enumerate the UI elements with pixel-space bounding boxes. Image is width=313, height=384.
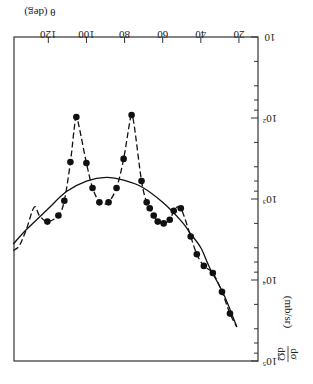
solid-fit-curve xyxy=(13,177,237,327)
data-point xyxy=(194,251,201,258)
y-tick-label: 103 xyxy=(262,194,277,206)
data-point xyxy=(83,160,90,167)
y-tick-exponent: 3 xyxy=(262,198,266,206)
y-tick-label: 105 xyxy=(262,356,277,368)
data-point xyxy=(160,220,167,227)
x-tick-label: 80 xyxy=(119,29,131,41)
cross-section-chart: 20406080100120 10102103104105 θ (deg) (m… xyxy=(0,0,313,384)
data-point xyxy=(105,199,112,206)
y-axis: 10102103104105 xyxy=(251,32,277,368)
plot-frame xyxy=(14,37,258,361)
data-point xyxy=(201,263,208,270)
data-point xyxy=(146,205,153,212)
x-tick-label: 100 xyxy=(78,29,95,41)
data-point xyxy=(44,218,51,225)
data-point xyxy=(61,197,68,204)
data-point xyxy=(138,178,145,185)
x-tick-label: 60 xyxy=(157,29,169,41)
data-point xyxy=(143,199,150,206)
y-axis-label: (mb/sr) dσ dΩ xyxy=(276,296,301,362)
data-point xyxy=(67,159,74,166)
y-axis-label-numerator: dσ xyxy=(289,348,301,360)
x-axis: 20406080100120 xyxy=(40,29,245,43)
data-point xyxy=(227,310,234,317)
data-point xyxy=(170,208,177,215)
y-tick-exponent: 2 xyxy=(262,117,266,125)
data-point xyxy=(154,218,161,225)
data-point xyxy=(120,156,127,163)
data-point xyxy=(210,270,217,277)
y-tick-label: 104 xyxy=(262,275,277,287)
y-tick-exponent: 5 xyxy=(262,360,266,368)
x-axis-label: θ (deg) xyxy=(24,6,56,19)
data-point xyxy=(128,112,135,119)
data-point xyxy=(219,289,226,296)
data-point xyxy=(89,185,96,192)
data-point xyxy=(150,212,157,219)
y-tick-label: 102 xyxy=(262,113,277,125)
y-tick-label: 10 xyxy=(264,32,276,44)
plot-border xyxy=(14,37,258,361)
y-tick-exponent: 4 xyxy=(262,279,266,287)
x-tick-label: 40 xyxy=(195,29,207,41)
data-point xyxy=(73,114,80,121)
data-point xyxy=(96,199,103,206)
data-point xyxy=(177,205,184,212)
x-tick-label: 20 xyxy=(233,29,245,41)
data-point xyxy=(166,216,173,223)
y-axis-label-units: (mb/sr) xyxy=(282,296,295,329)
y-axis-label-denominator: dΩ xyxy=(276,347,288,361)
data-point xyxy=(55,212,62,219)
x-tick-label: 120 xyxy=(40,29,57,41)
data-point xyxy=(113,185,120,192)
data-point xyxy=(187,233,194,240)
